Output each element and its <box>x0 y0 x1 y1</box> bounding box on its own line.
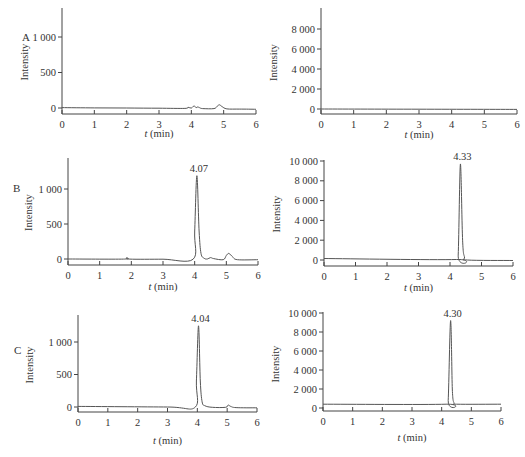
y-tick-label: 0 <box>310 104 315 115</box>
y-tick-label: 4 000 <box>291 64 315 75</box>
y-tick-label: 0 <box>57 254 62 265</box>
x-tick-label: 0 <box>321 271 326 282</box>
panel-label-b: B <box>13 182 20 194</box>
x-tick-label: 2 <box>384 119 389 130</box>
y-tick-label: 500 <box>46 219 62 230</box>
x-tick-label: 0 <box>65 270 70 281</box>
y-tick-label: 4 000 <box>293 365 317 376</box>
y-tick-label: 2 000 <box>291 84 315 95</box>
x-tick-label: 3 <box>165 417 170 428</box>
x-tick-label: 4 <box>192 270 198 281</box>
y-axis-title: Intensity <box>268 43 279 80</box>
x-tick-label: 5 <box>224 270 229 281</box>
x-tick-label: 4 <box>447 271 453 282</box>
y-tick-label: 500 <box>56 369 72 380</box>
y-tick-label: 10 000 <box>289 156 318 167</box>
y-tick-label: 8 000 <box>294 175 318 186</box>
x-tick-label: 5 <box>225 417 230 428</box>
chart-panel-a-right: 02 0004 0006 0008 0000123456t (min)Inten… <box>268 8 520 141</box>
y-axis-title: Intensity <box>271 195 282 232</box>
x-tick-label: 2 <box>129 270 134 281</box>
x-tick-label: 0 <box>318 119 323 130</box>
y-tick-label: 0 <box>312 403 317 414</box>
chart-panel-c-right: 02 0004 0006 0008 00010 0000123456t (min… <box>270 308 504 445</box>
x-tick-label: 3 <box>160 270 165 281</box>
x-tick-label: 4 <box>195 417 201 428</box>
y-tick-label: 1 000 <box>38 184 62 195</box>
x-tick-label: 3 <box>409 416 414 427</box>
y-tick-label: 1 000 <box>48 337 72 348</box>
y-tick-label: 10 000 <box>288 308 317 319</box>
x-tick-label: 1 <box>351 119 356 130</box>
x-axis-title: t (min) <box>149 281 178 293</box>
x-axis-title: t (min) <box>153 435 182 447</box>
x-tick-label: 5 <box>469 416 474 427</box>
x-tick-label: 2 <box>135 417 140 428</box>
y-axis-title: Intensity <box>24 346 35 383</box>
y-tick-label: 0 <box>313 255 318 266</box>
y-tick-label: 6 000 <box>294 195 318 206</box>
chromatogram-trace <box>68 176 258 262</box>
chart-panel-a-left: A05001 0000123456t (min)Intensity <box>19 8 259 140</box>
x-tick-label: 2 <box>384 271 389 282</box>
peak-label: 4.30 <box>443 308 461 319</box>
chart-panel-b-right: 02 0004 0006 0008 00010 0000123456t (min… <box>271 151 516 294</box>
y-axis-title: Intensity <box>19 43 30 80</box>
x-tick-label: 4 <box>439 416 445 427</box>
x-tick-label: 5 <box>479 271 484 282</box>
x-tick-label: 4 <box>189 119 195 130</box>
y-tick-label: 500 <box>40 67 56 78</box>
x-tick-label: 3 <box>416 271 421 282</box>
chromatogram-trace <box>324 164 513 263</box>
y-axis-title: Intensity <box>270 345 281 382</box>
x-tick-label: 6 <box>253 119 258 130</box>
y-axis-title: Intensity <box>23 193 34 230</box>
x-tick-label: 6 <box>510 271 515 282</box>
x-tick-label: 5 <box>482 119 487 130</box>
x-tick-label: 1 <box>92 119 97 130</box>
panel-label-a: A <box>22 31 30 43</box>
x-tick-label: 5 <box>221 119 226 130</box>
y-tick-label: 4 000 <box>294 215 318 226</box>
y-tick-label: 2 000 <box>293 384 317 395</box>
peak-label: 4.04 <box>191 313 210 324</box>
y-tick-label: 8 000 <box>291 24 315 35</box>
x-tick-label: 1 <box>350 416 355 427</box>
x-tick-label: 6 <box>514 119 519 130</box>
x-tick-label: 6 <box>255 270 260 281</box>
x-tick-label: 6 <box>254 417 259 428</box>
y-tick-label: 1 000 <box>32 32 56 43</box>
y-tick-label: 2 000 <box>294 235 318 246</box>
x-tick-label: 0 <box>59 119 64 130</box>
panel-label-c: C <box>14 344 21 356</box>
peak-label: 4.07 <box>190 163 208 174</box>
x-tick-label: 0 <box>320 416 325 427</box>
y-tick-label: 0 <box>51 103 56 114</box>
x-tick-label: 1 <box>105 417 110 428</box>
chromatogram-trace <box>78 326 257 409</box>
x-tick-label: 2 <box>124 119 129 130</box>
x-tick-label: 1 <box>97 270 102 281</box>
y-tick-label: 6 000 <box>293 346 317 357</box>
x-tick-label: 6 <box>498 416 503 427</box>
x-axis-title: t (min) <box>404 282 433 294</box>
chromatogram-figure: A05001 0000123456t (min)Intensity02 0004… <box>0 0 525 457</box>
x-tick-label: 0 <box>75 417 80 428</box>
x-tick-label: 2 <box>380 416 385 427</box>
x-axis-title: t (min) <box>405 129 434 141</box>
x-axis-title: t (min) <box>145 128 174 140</box>
chart-panel-b-left: B05001 0000123456t (min)Intensity4.07 <box>13 158 261 293</box>
chromatogram-trace <box>323 321 501 408</box>
chart-panel-c-left: C05001 0000123456t (min)Intensity4.04 <box>14 313 260 447</box>
x-tick-label: 1 <box>353 271 358 282</box>
peak-label: 4.33 <box>453 151 471 162</box>
y-tick-label: 0 <box>67 402 72 413</box>
y-tick-label: 8 000 <box>293 327 317 338</box>
x-tick-label: 4 <box>449 119 455 130</box>
y-tick-label: 6 000 <box>291 44 315 55</box>
chromatogram-trace <box>62 105 256 110</box>
x-axis-title: t (min) <box>398 432 427 444</box>
